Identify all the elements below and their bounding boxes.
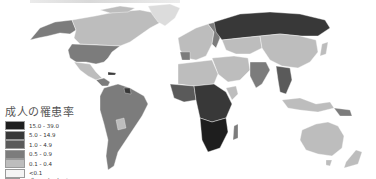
region-middle-east [212, 56, 250, 82]
region-southeast-asia [276, 66, 292, 94]
legend-swatch [5, 131, 25, 140]
region-alaska [30, 20, 76, 40]
legend-label: 5.0 - 14.9 [29, 132, 55, 138]
region-india [250, 62, 270, 88]
region-bolivia [116, 118, 126, 130]
legend-label: 0.5 - 0.9 [29, 151, 52, 157]
region-tasmania [326, 160, 332, 166]
legend-swatch [5, 140, 25, 149]
legend-label: 15.0 - 39.0 [29, 123, 59, 129]
legend-item: 5.0 - 14.9 [5, 131, 74, 141]
legend-item: データなし [5, 178, 74, 179]
legend-item: 15.0 - 39.0 [5, 121, 74, 131]
legend-item: 1.0 - 4.9 [5, 140, 74, 150]
legend-label: 1.0 - 4.9 [29, 142, 52, 148]
legend-item: 0.1 - 0.4 [5, 159, 74, 169]
region-west-africa [170, 84, 196, 102]
region-southern-africa [200, 118, 228, 152]
region-madagascar [233, 124, 238, 140]
region-caribbean [108, 72, 116, 75]
legend-label: 0.1 - 0.4 [29, 161, 52, 167]
region-central-africa [194, 84, 232, 122]
region-iberia [180, 52, 190, 60]
legend-swatch [5, 169, 25, 178]
legend-label: データなし [24, 175, 74, 179]
legend-title: 成人の罹患率 [5, 103, 74, 119]
region-guyana [124, 88, 131, 94]
legend-swatch [5, 159, 25, 168]
region-indonesia [282, 98, 334, 112]
region-australia [300, 122, 344, 156]
region-north-africa [178, 60, 218, 86]
legend-swatch [5, 150, 25, 159]
region-canada [72, 10, 165, 46]
region-papua [334, 108, 352, 116]
region-new-zealand [344, 150, 362, 168]
region-mexico [74, 62, 102, 80]
map-legend: 成人の罹患率 15.0 - 39.0 5.0 - 14.9 1.0 - 4.9 … [5, 103, 74, 179]
legend-swatch [5, 178, 20, 179]
region-usa [68, 44, 120, 64]
legend-swatch [5, 121, 25, 130]
legend-item: 0.5 - 0.9 [5, 150, 74, 160]
region-japan [320, 42, 328, 56]
region-china [260, 34, 318, 68]
